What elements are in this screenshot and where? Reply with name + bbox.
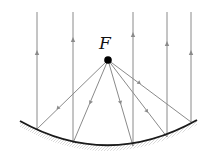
- mirror-backing: [20, 120, 197, 151]
- focus-label: F: [99, 33, 111, 53]
- mirror-diagram: [0, 0, 213, 154]
- reflected-arrows: [35, 32, 193, 55]
- focus-point: [104, 56, 112, 64]
- concave-mirror: [20, 120, 197, 145]
